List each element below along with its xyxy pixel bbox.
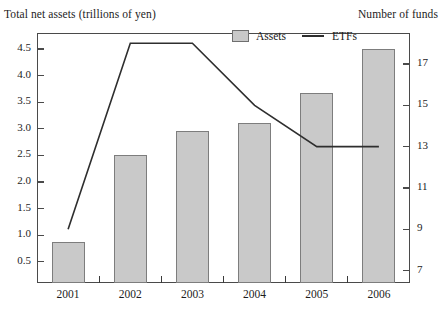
line-series-etfs — [0, 0, 443, 313]
legend-swatch-assets — [232, 30, 249, 42]
legend-label-etfs: ETFs — [332, 30, 357, 42]
legend-label-assets: Assets — [256, 30, 286, 42]
chart-container: Total net assets (trillions of yen) Numb… — [0, 0, 443, 313]
legend-line-etfs — [302, 35, 324, 37]
chart-legend: Assets ETFs — [232, 30, 357, 42]
